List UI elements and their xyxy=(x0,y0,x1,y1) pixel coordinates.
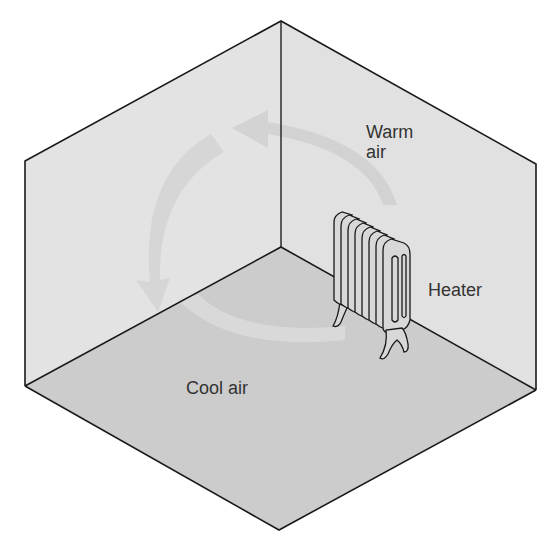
warm-air-label-line1: Warm xyxy=(366,122,413,142)
warm-air-label: Warm air xyxy=(366,122,413,162)
heater-label: Heater xyxy=(428,280,482,300)
room-convection-diagram xyxy=(0,0,548,551)
cool-air-label: Cool air xyxy=(186,378,248,398)
warm-air-label-line2: air xyxy=(366,142,413,162)
